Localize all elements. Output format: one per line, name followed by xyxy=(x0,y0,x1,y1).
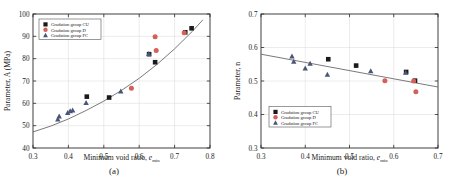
legend-label: Gradation group D xyxy=(281,115,316,120)
panel-b: 0.30.40.50.60.7 0.30.40.50.60.7 Gradatio… xyxy=(228,0,456,195)
data-point-circle xyxy=(154,48,159,53)
x-axis-title-a-sub: min xyxy=(152,158,160,162)
y-tick-labels-a: 405060708090100 xyxy=(19,11,30,153)
data-point-square xyxy=(354,63,359,68)
data-point-square xyxy=(107,95,112,100)
data-point-triangle xyxy=(83,100,88,105)
x-tick-label: 0.7 xyxy=(434,153,443,161)
data-points-b xyxy=(289,53,418,94)
panel-caption-a: (a) xyxy=(0,166,228,176)
y-tick-labels-b: 0.30.40.50.60.7 xyxy=(249,11,258,153)
data-points-a xyxy=(55,26,194,122)
panel-a: 0.30.40.50.60.70.8 405060708090100 Grada… xyxy=(0,0,228,195)
data-point-square xyxy=(85,94,90,99)
x-tick-label: 0.7 xyxy=(170,153,179,161)
legend-b: Gradation group CUGradation group DGrada… xyxy=(269,107,331,128)
data-point-circle xyxy=(382,78,387,83)
x-tick-label: 0.4 xyxy=(301,153,310,161)
plot-area-b: 0.30.40.50.60.7 0.30.40.50.60.7 Gradatio… xyxy=(228,0,456,162)
plot-area-a: 0.30.40.50.60.70.8 405060708090100 Grada… xyxy=(0,0,228,162)
x-tick-label: 0.8 xyxy=(206,153,215,161)
legend-marker-circle xyxy=(273,115,277,119)
legend-label: Gradation group CU xyxy=(51,22,89,27)
y-tick-label: 90 xyxy=(22,33,30,41)
y-tick-label: 0.5 xyxy=(249,78,258,86)
legend-marker-square xyxy=(273,110,277,114)
data-point-triangle xyxy=(368,68,373,73)
data-point-circle xyxy=(129,86,134,91)
data-point-circle xyxy=(153,34,158,39)
legend-marker-circle xyxy=(43,28,47,32)
y-tick-label: 0.6 xyxy=(249,44,258,52)
y-tick-label: 70 xyxy=(22,78,30,86)
data-point-triangle xyxy=(56,113,61,118)
x-tick-label: 0.3 xyxy=(29,153,38,161)
data-point-square xyxy=(189,26,194,31)
y-axis-title-b: Parameter, n xyxy=(233,62,242,100)
legend-label: Gradation group FC xyxy=(281,121,318,126)
data-point-square xyxy=(326,57,331,62)
x-axis-title-b-sub: min xyxy=(380,158,388,162)
y-tick-label: 0.4 xyxy=(249,111,258,119)
data-point-square xyxy=(153,60,158,65)
y-tick-label: 40 xyxy=(22,145,30,153)
legend-label: Gradation group CU xyxy=(281,110,319,115)
data-point-triangle xyxy=(325,72,330,77)
x-tick-label: 0.6 xyxy=(389,153,398,161)
legend-label: Gradation group D xyxy=(51,28,86,33)
data-point-triangle xyxy=(289,53,294,58)
chart-svg-b: 0.30.40.50.60.7 0.30.40.50.60.7 Gradatio… xyxy=(228,0,456,162)
x-axis-title-b: Minimum void ratio, emin xyxy=(311,153,388,162)
panel-caption-b: (b) xyxy=(228,166,456,176)
figure-container: 0.30.40.50.60.70.8 405060708090100 Grada… xyxy=(0,0,457,195)
y-tick-label: 100 xyxy=(19,11,30,19)
x-axis-title-a-main: Minimum void ratio, xyxy=(83,153,148,162)
y-tick-label: 0.7 xyxy=(249,11,258,19)
y-axis-title-a: Parameter, A (MPa) xyxy=(3,50,12,111)
data-point-circle xyxy=(182,30,187,35)
x-tick-label: 0.3 xyxy=(257,153,266,161)
legend-a: Gradation group CUGradation group DGrada… xyxy=(39,19,101,40)
y-tick-label: 50 xyxy=(22,122,30,130)
y-tick-label: 60 xyxy=(22,100,30,108)
x-axis-title-b-main: Minimum void ratio, xyxy=(311,153,376,162)
data-point-triangle xyxy=(303,65,308,70)
y-tick-label: 80 xyxy=(22,55,30,63)
y-tick-label: 0.3 xyxy=(249,145,258,153)
legend-marker-square xyxy=(43,22,47,26)
x-tick-label: 0.4 xyxy=(64,153,73,161)
data-point-circle xyxy=(411,79,416,84)
legend-label: Gradation group FC xyxy=(51,33,88,38)
data-point-circle xyxy=(413,89,418,94)
x-axis-title-a: Minimum void ratio, emin xyxy=(83,153,160,162)
chart-svg-a: 0.30.40.50.60.70.8 405060708090100 Grada… xyxy=(0,0,228,162)
